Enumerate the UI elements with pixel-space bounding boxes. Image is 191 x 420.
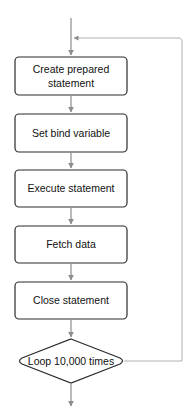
step-label: statement bbox=[48, 77, 94, 89]
decision-label: Loop 10,000 times bbox=[28, 355, 114, 367]
decision-loop: Loop 10,000 times bbox=[20, 339, 123, 383]
step-close-statement: Close statement bbox=[15, 282, 127, 319]
step-fetch-data: Fetch data bbox=[15, 226, 127, 263]
step-label: Set bind variable bbox=[32, 127, 110, 139]
flowchart: Create prepared statement Set bind varia… bbox=[0, 0, 191, 420]
step-label: Fetch data bbox=[46, 238, 96, 250]
step-set-bind-variable: Set bind variable bbox=[15, 114, 127, 152]
step-execute-statement: Execute statement bbox=[15, 170, 127, 207]
step-create-prepared-statement: Create prepared statement bbox=[15, 57, 127, 95]
step-label: Create prepared bbox=[33, 63, 110, 75]
step-label: Close statement bbox=[33, 294, 109, 306]
step-label: Execute statement bbox=[28, 182, 115, 194]
